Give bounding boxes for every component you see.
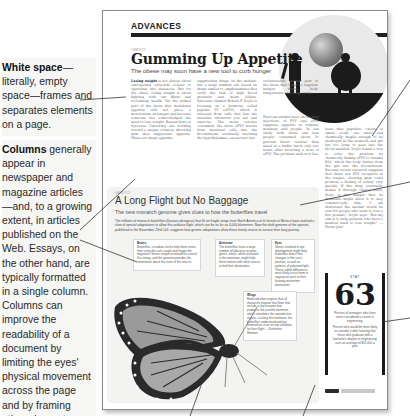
callout-text: Genes involved in eye development might … <box>275 245 309 287</box>
article-dek: The new monarch genome gives clues to ho… <box>115 209 267 215</box>
comment-link <box>341 389 375 393</box>
column-text: is not always about anticipating outward… <box>131 79 191 140</box>
round-figure-body <box>331 61 361 91</box>
comment-tag <box>325 389 339 393</box>
annotation-text: generally appear in newspaper and magazi… <box>2 144 92 416</box>
annotation-column: White space—literally, empty space—frame… <box>0 0 100 416</box>
stat-value: 63 <box>332 279 378 311</box>
body-column-4: Previous studies have shown that injecti… <box>263 115 319 181</box>
body-column-2: suppressing drugs on the market, but a l… <box>197 79 257 157</box>
annotation-term: Columns <box>2 144 46 155</box>
monarch-butterfly-image <box>107 287 287 407</box>
magazine-page: ADVANCES OBESITY Gumming Up Appetite The… <box>102 10 388 410</box>
annotation-term: White space <box>2 62 63 73</box>
stat-box: STAT 63 Percent of teenagers who have ne… <box>325 273 385 375</box>
annotation-columns: Columns generally appear in newspaper an… <box>2 140 96 416</box>
article-intro: The millions of monarch butterflies (Dan… <box>115 219 315 232</box>
section-label: ADVANCES <box>131 21 181 31</box>
callout-brains: Brains Butterflies' circadian clocks hel… <box>133 239 201 271</box>
annotation-white-space: White space—literally, empty space—frame… <box>2 58 96 136</box>
article-headline: A Long Flight but No Baggage <box>115 195 248 206</box>
callout-text: The butterflies have a large number of o… <box>219 245 260 268</box>
callout-text: Butterflies' circadian clocks help them … <box>137 245 197 264</box>
callout-eyes: Eyes Genes involved in eye development m… <box>271 239 315 293</box>
stat-description: Percent of teenagers who have never cons… <box>332 312 378 323</box>
body-column-3: evolutionarily ancient part of the brain… <box>263 79 318 111</box>
body-column-1: Losing weight is not always about antici… <box>131 79 191 177</box>
body-column-5: been that peptides, chains of amino acid… <box>325 127 383 269</box>
stat-note: Percent who would be more likely to cons… <box>332 326 378 349</box>
callout-antennae: Antennae The butterflies have a large nu… <box>215 239 265 277</box>
article-headline: Gumming Up Appetite <box>131 51 303 67</box>
article-dek: The obese may soon have a new tool to cu… <box>131 68 271 74</box>
